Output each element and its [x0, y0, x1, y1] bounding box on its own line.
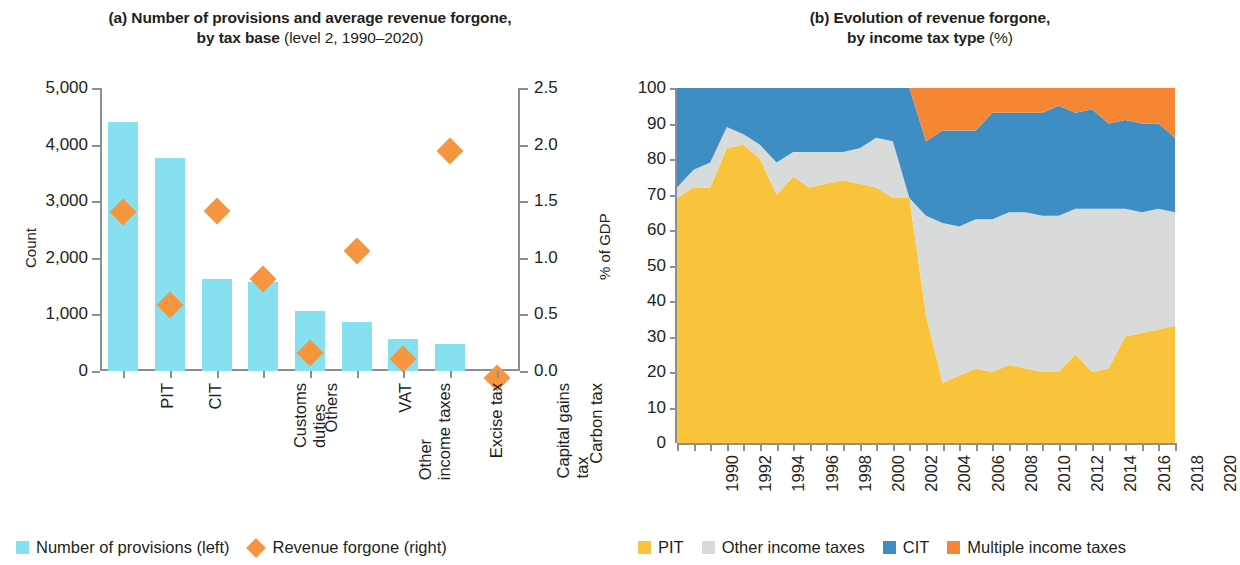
panel-a-ytick-left-0: 5,000 — [8, 79, 88, 96]
panel-b-xlabel-2002: 2002 — [922, 455, 941, 492]
panel-b-xlabel-1998: 1998 — [856, 455, 875, 492]
panel-b-xtick-mark-2012 — [1042, 443, 1044, 451]
bar-cit — [155, 158, 185, 371]
panel-b-ytick-10: 0 — [620, 434, 666, 451]
panel-b-title-line1: (b) Evolution of revenue forgone, — [620, 8, 1240, 28]
panel-a-ytick-mark-right-0 — [520, 88, 528, 90]
panel-b-ytick-0: 100 — [620, 79, 666, 96]
panel-b-title-bold: by income tax type — [847, 29, 989, 46]
panel-b-xtick-mark-1998 — [810, 443, 812, 451]
legend-label: PIT — [658, 538, 684, 557]
legend-item-cit[interactable]: CIT — [883, 538, 930, 557]
legend-diamond-icon — [247, 538, 267, 558]
panel-b-ytick-4: 60 — [620, 221, 666, 238]
panel-a-xtick-mark-3 — [263, 371, 265, 378]
legend-label: Other income taxes — [722, 538, 865, 557]
legend-swatch-icon — [702, 541, 715, 554]
panel-a-ytick-mark-left-3 — [92, 258, 100, 260]
panel-b-xtick-mark-2000 — [843, 443, 845, 451]
legend-label: CIT — [903, 538, 930, 557]
legend-swatch-icon — [883, 541, 896, 554]
panel-a-legend: Number of provisions (left)Revenue forgo… — [16, 538, 447, 557]
panel-b-ytick-5: 50 — [620, 257, 666, 274]
panel-a-xtick-mark-5 — [357, 371, 359, 378]
panel-b-xtick-mark-2001 — [860, 443, 862, 451]
panel-a-xlabel-carbon-tax: Carbon tax — [586, 383, 605, 464]
panel-a-left-spine — [100, 88, 102, 371]
panel-b-xlabel-2004: 2004 — [955, 455, 974, 492]
panel-a-ytick-right-4: 0.5 — [534, 305, 558, 322]
panel-b-xtick-mark-2018 — [1142, 443, 1144, 451]
panel-a-xtick-mark-4 — [310, 371, 312, 378]
panel-b-xtick-mark-2011 — [1026, 443, 1028, 451]
panel-b-xtick-mark-2015 — [1092, 443, 1094, 451]
panel-a-xlabel-others: Others — [322, 383, 341, 433]
panel-b-xtick-mark-1994 — [743, 443, 745, 451]
legend-label: Revenue forgone (right) — [272, 538, 446, 557]
legend-item-pit[interactable]: PIT — [638, 538, 684, 557]
panel-b-xtick-mark-1993 — [727, 443, 729, 451]
legend-item-other-income-taxes[interactable]: Other income taxes — [702, 538, 865, 557]
figure-container: (a) Number of provisions and average rev… — [0, 0, 1240, 565]
panel-a-xlabel-pit: PIT — [158, 383, 177, 409]
legend-item-multiple-income-taxes[interactable]: Multiple income taxes — [947, 538, 1126, 557]
panel-b-xtick-mark-2016 — [1109, 443, 1111, 451]
panel-b-xtick-mark-1996 — [777, 443, 779, 451]
panel-a-xtick-mark-2 — [217, 371, 219, 378]
bar-customs-duties — [202, 279, 232, 371]
panel-b-xtick-mark-2005 — [926, 443, 928, 451]
panel-a-ytick-mark-right-4 — [520, 314, 528, 316]
panel-a-xtick-mark-1 — [170, 371, 172, 378]
panel-b-xtick-mark-2014 — [1075, 443, 1077, 451]
panel-b-xtick-mark-2019 — [1158, 443, 1160, 451]
panel-b-xtick-mark-2008 — [976, 443, 978, 451]
panel-a-ytick-mark-left-0 — [92, 88, 100, 90]
legend-item-number-of-provisions-left-[interactable]: Number of provisions (left) — [16, 538, 229, 557]
panel-b-xtick-mark-2010 — [1009, 443, 1011, 451]
panel-a-ytick-left-1: 4,000 — [8, 136, 88, 153]
panel-b-xtick-mark-2003 — [893, 443, 895, 451]
panel-b-xlabel-2008: 2008 — [1022, 455, 1041, 492]
panel-b-ytick-1: 90 — [620, 115, 666, 132]
panel-b-xtick-mark-2017 — [1125, 443, 1127, 451]
panel-a-ytick-right-1: 2.0 — [534, 136, 558, 153]
panel-b-xlabel-1990: 1990 — [723, 455, 742, 492]
panel-a-ytick-mark-right-1 — [520, 145, 528, 147]
panel-b-ytick-8: 20 — [620, 363, 666, 380]
stacked-area-chart — [677, 88, 1175, 443]
panel-a-xtick-mark-6 — [403, 371, 405, 378]
panel-b-xlabel-1994: 1994 — [789, 455, 808, 492]
panel-b-xtick-mark-2006 — [943, 443, 945, 451]
panel-b-xtick-mark-2007 — [959, 443, 961, 451]
panel-b-xtick-mark-1991 — [694, 443, 696, 451]
legend-item-revenue-forgone-right-[interactable]: Revenue forgone (right) — [247, 538, 446, 557]
panel-a-ytick-mark-right-5 — [520, 371, 528, 373]
panel-b-xlabel-1992: 1992 — [756, 455, 775, 492]
panel-b-xlabel-2016: 2016 — [1154, 455, 1173, 492]
panel-b-xlabel-2018: 2018 — [1188, 455, 1207, 492]
panel-a-title-bold: by tax base — [197, 29, 285, 46]
panel-b-ytick-2: 80 — [620, 150, 666, 167]
panel-b-xlabel-2010: 2010 — [1055, 455, 1074, 492]
panel-a-xtick-mark-0 — [123, 371, 125, 378]
panel-a-ytick-mark-right-3 — [520, 258, 528, 260]
panel-a-ytick-right-5: 0.0 — [534, 362, 558, 379]
panel-a-xlabel-cit: CIT — [206, 383, 225, 410]
legend-label: Number of provisions (left) — [36, 538, 229, 557]
panel-a-ytick-right-0: 2.5 — [534, 79, 558, 96]
bar-vat — [342, 322, 372, 371]
panel-b-xlabel-2014: 2014 — [1121, 455, 1140, 492]
panel-b-xtick-mark-2020 — [1175, 443, 1177, 451]
panel-b-xlabel-2006: 2006 — [988, 455, 1007, 492]
panel-b-xtick-mark-2013 — [1059, 443, 1061, 451]
panel-a-ytick-mark-left-1 — [92, 145, 100, 147]
panel-b-xtick-mark-1992 — [710, 443, 712, 451]
panel-a-ytick-mark-left-5 — [92, 371, 100, 373]
panel-b-xtick-mark-2004 — [909, 443, 911, 451]
panel-b-ytick-9: 10 — [620, 399, 666, 416]
legend-label: Multiple income taxes — [967, 538, 1126, 557]
panel-b: (b) Evolution of revenue forgone, by inc… — [620, 0, 1240, 565]
panel-a-xtick-mark-7 — [450, 371, 452, 378]
legend-swatch-icon — [16, 541, 29, 554]
panel-a-ytick-mark-right-2 — [520, 201, 528, 203]
